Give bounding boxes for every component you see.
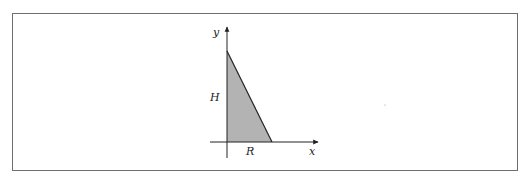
triangle-diagram: y x H R <box>0 0 528 183</box>
height-label: H <box>209 91 220 104</box>
x-axis-label: x <box>309 145 316 158</box>
base-label: R <box>245 145 254 158</box>
stray-dot <box>384 104 385 105</box>
y-axis-label: y <box>212 26 220 39</box>
